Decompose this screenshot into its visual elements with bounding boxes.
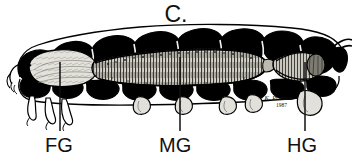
thoracic-legs (28, 96, 73, 125)
signature-name: © K. Prather (258, 94, 293, 101)
label-midgut: MG (159, 134, 191, 156)
signature-year: 1987 (276, 102, 287, 108)
label-hindgut: HG (287, 134, 317, 156)
label-foregut: FG (45, 134, 73, 156)
figure-panel: C. (0, 0, 352, 161)
